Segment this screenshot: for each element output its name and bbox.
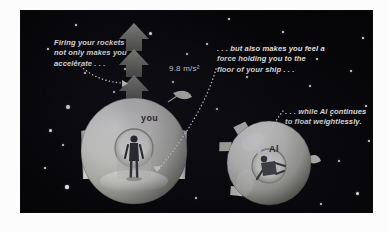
acceleration-value-label: 9.8 m/s² bbox=[169, 64, 200, 73]
figure-root: Firing your rockets not only makes you a… bbox=[0, 0, 388, 232]
caption-force: . . . but also makes you feel a force ho… bbox=[217, 44, 362, 75]
right-ship bbox=[218, 121, 321, 205]
caption-accelerate: Firing your rockets not only makes you a… bbox=[54, 38, 159, 69]
caption-float: . . . while Al continues to float weight… bbox=[285, 107, 373, 128]
left-ship bbox=[81, 91, 192, 204]
left-ship-antenna-icon bbox=[168, 91, 192, 102]
left-ship-label: you bbox=[141, 113, 158, 123]
space-scene-panel: Firing your rockets not only makes you a… bbox=[20, 10, 373, 213]
right-ship-label: Al bbox=[269, 144, 279, 154]
